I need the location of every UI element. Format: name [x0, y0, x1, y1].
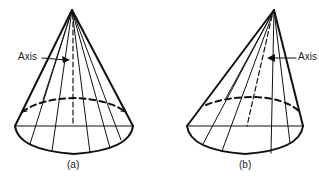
- cone-a: [15, 10, 133, 154]
- axis-label-a: Axis: [18, 52, 37, 62]
- cone-diagram: [0, 0, 319, 180]
- axis-label-b: Axis: [298, 52, 317, 62]
- cone-b: [187, 10, 303, 154]
- caption-b: (b): [239, 160, 251, 170]
- caption-a: (a): [67, 160, 79, 170]
